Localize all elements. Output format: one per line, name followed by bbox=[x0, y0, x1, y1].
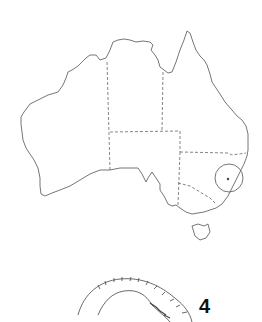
occurrence-point bbox=[227, 178, 229, 180]
occurrence-circle-marker bbox=[215, 164, 243, 192]
state-border-wa bbox=[107, 62, 110, 170]
figure-number-label: 4 bbox=[199, 295, 210, 318]
state-border-nsw-vic bbox=[178, 183, 216, 204]
mainland-outline bbox=[21, 31, 248, 214]
state-border-nt-qld bbox=[162, 72, 163, 131]
australia-distribution-map bbox=[0, 0, 262, 245]
specimen-drawing bbox=[0, 255, 262, 322]
state-border-qld-nsw bbox=[180, 152, 246, 155]
state-border-sa-nsw bbox=[178, 152, 180, 205]
tasmania-outline bbox=[192, 224, 210, 240]
state-border-nt-sa bbox=[110, 131, 180, 132]
